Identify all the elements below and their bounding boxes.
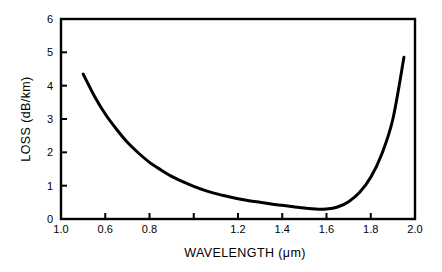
x-tick-label: 1.6 xyxy=(307,223,347,235)
y-tick-label: 5 xyxy=(29,46,53,58)
x-tick-label: 0.8 xyxy=(130,223,170,235)
x-tick-label: 1.2 xyxy=(218,223,258,235)
x-tick-label: 2.0 xyxy=(395,223,435,235)
x-tick-label: 1.4 xyxy=(262,223,302,235)
y-tick-label: 3 xyxy=(29,113,53,125)
y-tick-label: 4 xyxy=(29,80,53,92)
chart-figure: WAVELENGTH (μm) LOSS (dB/km) 1.00.60.81.… xyxy=(0,0,442,272)
y-tick-label: 0 xyxy=(29,213,53,225)
y-tick-label: 1 xyxy=(29,180,53,192)
x-tick-label: 1.8 xyxy=(351,223,391,235)
y-tick-label: 6 xyxy=(29,13,53,25)
x-tick-label: 0.6 xyxy=(85,223,125,235)
y-tick-label: 2 xyxy=(29,146,53,158)
x-axis-title: WAVELENGTH (μm) xyxy=(0,246,442,260)
